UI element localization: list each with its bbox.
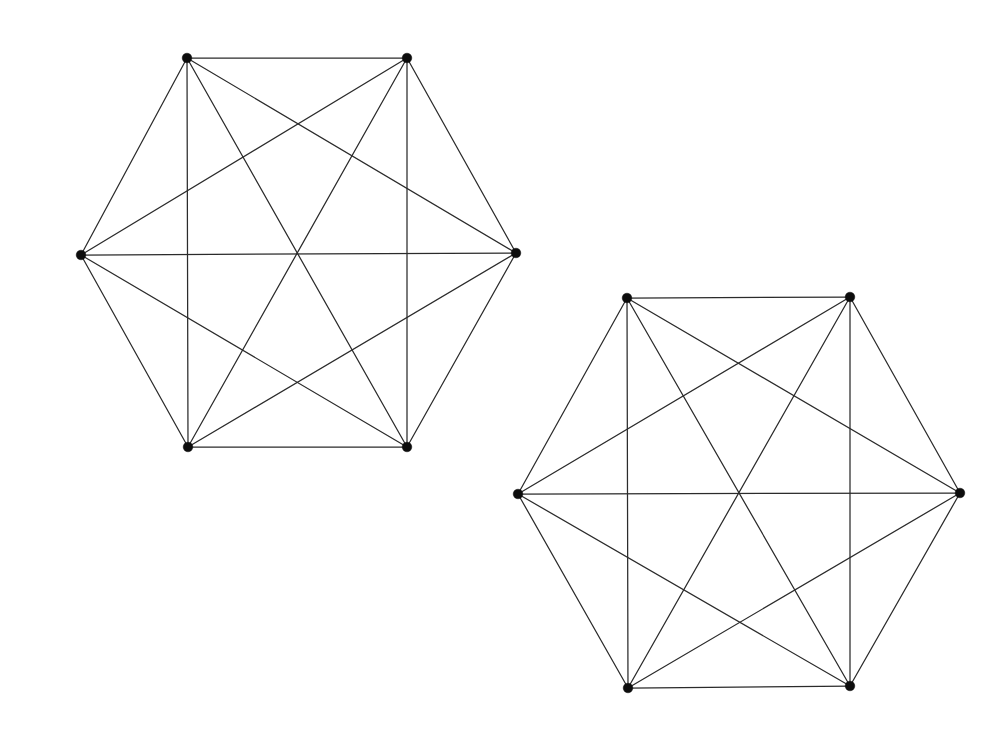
graph-edge (81, 58, 407, 255)
graph-edge (628, 297, 850, 688)
graph-vertex (622, 293, 632, 303)
graph-edge (188, 253, 516, 447)
graph-edge (518, 494, 628, 688)
graph-edge (518, 493, 960, 494)
graph-vertex (402, 53, 412, 63)
graph-vertex (76, 250, 86, 260)
graph-vertex (845, 681, 855, 691)
graph-vertex (183, 442, 193, 452)
right-complete-graph-k6-edges (518, 297, 960, 688)
graph-edge (850, 297, 960, 493)
graph-vertex (845, 292, 855, 302)
graph-edge (628, 493, 960, 688)
graph-vertex (623, 683, 633, 693)
graph-edge (518, 297, 850, 494)
graph-vertex (402, 442, 412, 452)
graph-edge (518, 298, 627, 494)
graph-edge (627, 297, 850, 298)
graph-edge (407, 253, 516, 447)
graph-edge (81, 255, 188, 447)
graph-edge (627, 298, 628, 688)
graph-edge (850, 493, 960, 686)
graph-edge (187, 58, 188, 447)
edges-layer (81, 58, 960, 688)
graph-vertex (182, 53, 192, 63)
graph-edge (518, 494, 850, 686)
left-complete-graph-k6-edges (81, 58, 516, 447)
graph-edge (407, 58, 516, 253)
graph-edge (81, 58, 187, 255)
figure-canvas (0, 0, 987, 739)
graph-vertex (511, 248, 521, 258)
graph-edge (628, 686, 850, 688)
graph-vertex (513, 489, 523, 499)
vertices-layer (76, 53, 965, 693)
graph-vertex (955, 488, 965, 498)
graph-edge (81, 255, 407, 447)
left-complete-graph-k6-vertices (76, 53, 521, 452)
graph-diagram (0, 0, 987, 739)
